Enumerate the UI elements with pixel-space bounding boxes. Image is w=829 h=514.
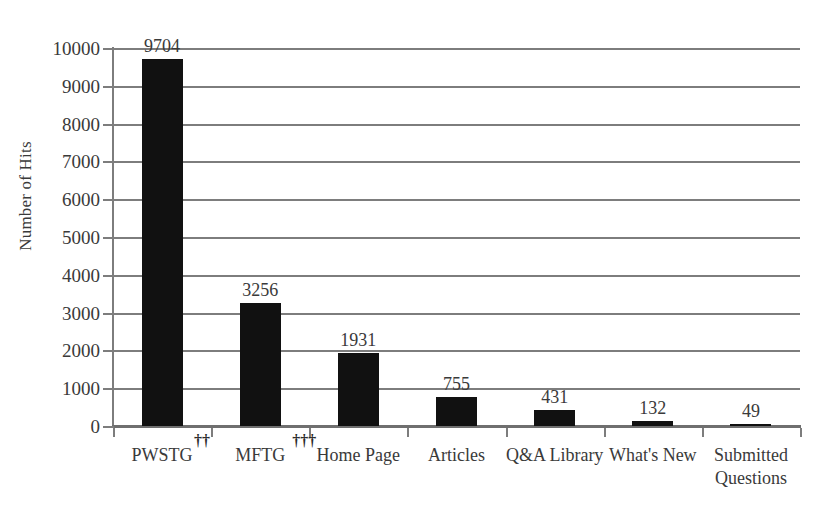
bar-value-label: 132	[603, 399, 703, 417]
x-axis-tick-mark	[113, 428, 115, 437]
y-axis-tick-label: 2000	[28, 341, 100, 360]
x-axis-category-label: Q&A Library	[500, 444, 610, 467]
y-axis-tick-mark	[103, 86, 114, 88]
x-axis-category-label: What's New	[598, 444, 708, 467]
x-axis-tick-mark	[702, 428, 704, 437]
category-label-line: Q&A Library	[500, 444, 610, 467]
category-label-line: Articles	[401, 444, 511, 467]
bar	[338, 353, 379, 426]
y-axis-tick-label: 9000	[28, 77, 100, 96]
x-axis-tick-mark	[800, 428, 802, 437]
y-axis-tick-label: 5000	[28, 228, 100, 247]
bar	[436, 397, 477, 426]
category-label-line: Submitted	[696, 444, 806, 467]
y-axis-tick-label: 10000	[28, 39, 100, 58]
bar	[632, 421, 673, 426]
y-axis-tick-mark	[103, 350, 114, 352]
y-axis-tick-label: 6000	[28, 190, 100, 209]
x-axis-tick-mark	[309, 428, 311, 437]
y-axis-tick-mark	[103, 313, 114, 315]
y-axis-tick-mark	[103, 388, 114, 390]
category-label-line: What's New	[598, 444, 708, 467]
bar	[534, 410, 575, 426]
bar-chart: Number of Hits 1000090008000700060005000…	[0, 0, 829, 514]
y-axis-tick-label: 4000	[28, 266, 100, 285]
bar-value-label: 3256	[210, 281, 310, 299]
bar	[142, 59, 183, 426]
y-axis-tick-labels: 1000090008000700060005000400030002000100…	[28, 0, 100, 514]
y-axis-tick-label: 3000	[28, 304, 100, 323]
y-axis-tick-label: 8000	[28, 115, 100, 134]
y-axis-tick-label: 0	[28, 417, 100, 436]
bar	[240, 303, 281, 426]
y-axis-tick-mark	[103, 161, 114, 163]
x-axis-category-label: Home Page	[303, 444, 413, 467]
bar-value-label: 9704	[112, 37, 212, 55]
x-axis-category-labels: PWSTG††MFTG†††Home PageArticlesQ&A Libra…	[113, 444, 800, 510]
x-axis-tick-mark	[407, 428, 409, 437]
y-axis-tick-label: 1000	[28, 379, 100, 398]
x-axis-category-label: PWSTG††	[107, 444, 217, 467]
bar-value-label: 431	[505, 388, 605, 406]
bar-value-label: 755	[407, 375, 507, 393]
y-axis-tick-mark	[103, 199, 114, 201]
y-axis-tick-mark	[103, 124, 114, 126]
category-label-line: Questions	[696, 467, 806, 490]
x-axis-tick-mark	[604, 428, 606, 437]
bar-value-label: 1931	[308, 331, 408, 349]
bar-value-label: 49	[701, 402, 801, 420]
x-axis-category-label: Articles	[401, 444, 511, 467]
bar-series	[113, 48, 800, 426]
category-label-line: Home Page	[303, 444, 413, 467]
x-axis-category-label: SubmittedQuestions	[696, 444, 806, 490]
x-axis-tick-mark	[506, 428, 508, 437]
x-axis-category-label: MFTG†††	[205, 444, 315, 467]
bar	[730, 424, 771, 426]
y-axis-tick-label: 7000	[28, 152, 100, 171]
y-axis-tick-mark	[103, 237, 114, 239]
x-axis-tick-mark	[211, 428, 213, 437]
y-axis-tick-mark	[103, 275, 114, 277]
